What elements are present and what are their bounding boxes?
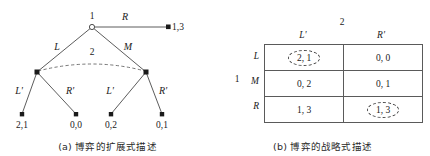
terminal-node-left-right — [74, 112, 78, 116]
table-row: 1, 3 1, 3 — [265, 97, 423, 123]
matrix-cell-R-Lprime[interactable]: 1, 3 — [265, 97, 344, 123]
matrix-column-header-Lprime: L' — [264, 30, 342, 40]
matrix-cell-L-Lprime[interactable]: 2, 1 — [265, 45, 344, 71]
caption-panel-b: (b) 博弈的战略式描述 — [215, 139, 430, 153]
edge-right-node-left — [111, 72, 146, 114]
decision-node-left — [35, 70, 40, 75]
edge-label-R: R — [121, 11, 128, 22]
edge-label-M: M — [123, 41, 133, 52]
matrix-row-header-L: L — [245, 51, 259, 61]
table-row: 0, 2 0, 1 — [265, 71, 423, 97]
payoff-matrix-wrap: 2 L' R' 1 L M R 2, 1 0, 0 — [215, 0, 430, 132]
matrix-cell-value: 0, 2 — [289, 78, 319, 90]
matrix-column-player-label: 2 — [264, 17, 420, 27]
edge-label-right-node-Rprime: R' — [158, 85, 168, 96]
edge-left-node-left — [22, 72, 37, 114]
terminal-node-left-left — [20, 112, 24, 116]
matrix-cell-value: 1, 3 — [289, 104, 319, 116]
caption-panel-a: (a) 博弈的扩展式描述 — [0, 139, 215, 153]
edge-label-right-node-Lprime: L' — [105, 85, 115, 96]
game-theory-figure: 1 2 L M R L' R' L' R' 1,3 2,1 0,0 0,2 0,… — [0, 0, 430, 156]
payoff-right-right: 0,1 — [156, 120, 168, 130]
matrix-cell-value: 0, 0 — [368, 52, 398, 64]
information-set-label: 2 — [90, 47, 95, 57]
matrix-row-header-R: R — [245, 101, 259, 111]
matrix-cell-M-Lprime[interactable]: 0, 2 — [265, 71, 344, 97]
panel-extensive-form: 1 2 L M R L' R' L' R' 1,3 2,1 0,0 0,2 0,… — [0, 0, 215, 156]
root-player-label: 1 — [90, 11, 95, 21]
terminal-node-right-right — [160, 112, 164, 116]
matrix-cell-R-Rprime[interactable]: 1, 3 — [344, 97, 423, 123]
payoff-left-right: 0,0 — [70, 120, 82, 130]
payoff-left-left: 2,1 — [16, 120, 28, 130]
matrix-column-header-Rprime: R' — [342, 30, 420, 40]
root-node — [89, 24, 94, 29]
payoff-root-right: 1,3 — [172, 22, 184, 32]
matrix-cell-value: 2, 1 — [289, 52, 319, 64]
edge-label-left-node-Lprime: L' — [14, 85, 24, 96]
payoff-matrix-table: 2, 1 0, 0 0, 2 0, 1 — [264, 44, 423, 123]
matrix-row-header-M: M — [245, 76, 259, 86]
matrix-cell-M-Rprime[interactable]: 0, 1 — [344, 71, 423, 97]
panel-strategic-form: 2 L' R' 1 L M R 2, 1 0, 0 — [215, 0, 430, 156]
table-row: 2, 1 0, 0 — [265, 45, 423, 71]
payoff-right-left: 0,2 — [105, 120, 117, 130]
matrix-cell-L-Rprime[interactable]: 0, 0 — [344, 45, 423, 71]
edge-label-L: L — [53, 41, 60, 52]
decision-node-right — [144, 70, 149, 75]
terminal-node-root-right — [166, 25, 171, 30]
matrix-cell-value: 1, 3 — [368, 104, 398, 116]
matrix-cell-value: 0, 1 — [368, 78, 398, 90]
edge-label-left-node-Rprime: R' — [65, 85, 75, 96]
game-tree-svg: 1 2 L M R L' R' L' R' 1,3 2,1 0,0 0,2 0,… — [0, 0, 215, 132]
edge-root-left — [37, 27, 92, 72]
edge-root-middle — [92, 27, 146, 72]
terminal-node-right-left — [109, 112, 113, 116]
information-set-arc — [38, 64, 145, 71]
matrix-row-player-label: 1 — [231, 74, 243, 84]
